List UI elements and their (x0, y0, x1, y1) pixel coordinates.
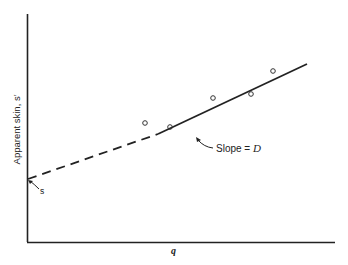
extrapolation-dashed-line (28, 134, 158, 179)
data-point (249, 92, 254, 97)
data-point (271, 69, 276, 74)
y-axis-label: Apparent skin, s′ (11, 70, 22, 190)
data-point (211, 96, 216, 101)
fitted-line (158, 64, 307, 134)
slope-variable: D (253, 142, 261, 154)
chart-plot (0, 0, 348, 265)
data-point (143, 121, 148, 126)
slope-arrow-icon (198, 140, 213, 148)
slope-arrowhead-icon (196, 137, 201, 142)
data-points (143, 69, 276, 130)
intercept-annotation: s (40, 186, 44, 196)
slope-annotation: Slope = D (216, 142, 261, 154)
slope-prefix: Slope = (216, 143, 253, 154)
x-axis-label: q (171, 245, 176, 256)
